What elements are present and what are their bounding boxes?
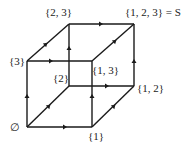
edge-3-23 <box>27 24 69 61</box>
label-set-13: {1, 3} <box>92 64 119 76</box>
edge-13-123 <box>92 24 134 61</box>
arrow-up-icon <box>90 94 95 98</box>
subset-cube-diagram: ∅ {1} {2} {3} {1, 2} {1, 3} {2, 3} {1, 2… <box>0 0 184 149</box>
label-set-2: {2} <box>53 72 69 84</box>
label-empty-set: ∅ <box>10 121 20 133</box>
arrow-up-icon <box>132 59 137 63</box>
arrow-right-icon <box>105 84 109 89</box>
label-set-23: {2, 3} <box>45 6 72 18</box>
arrow-right-icon <box>49 59 53 64</box>
label-set-12: {1, 2} <box>137 82 164 94</box>
arrow-up-icon <box>25 94 30 98</box>
label-set-123-S: {1, 2, 3} = S <box>125 6 181 18</box>
label-set-1: {1} <box>88 130 104 142</box>
arrow-right-icon <box>63 125 67 130</box>
arrow-up-icon <box>67 46 72 50</box>
label-set-3: {3} <box>9 55 25 67</box>
arrow-right-icon <box>99 22 103 27</box>
vertex-labels: ∅ {1} {2} {3} {1, 2} {1, 3} {2, 3} {1, 2… <box>9 6 181 142</box>
